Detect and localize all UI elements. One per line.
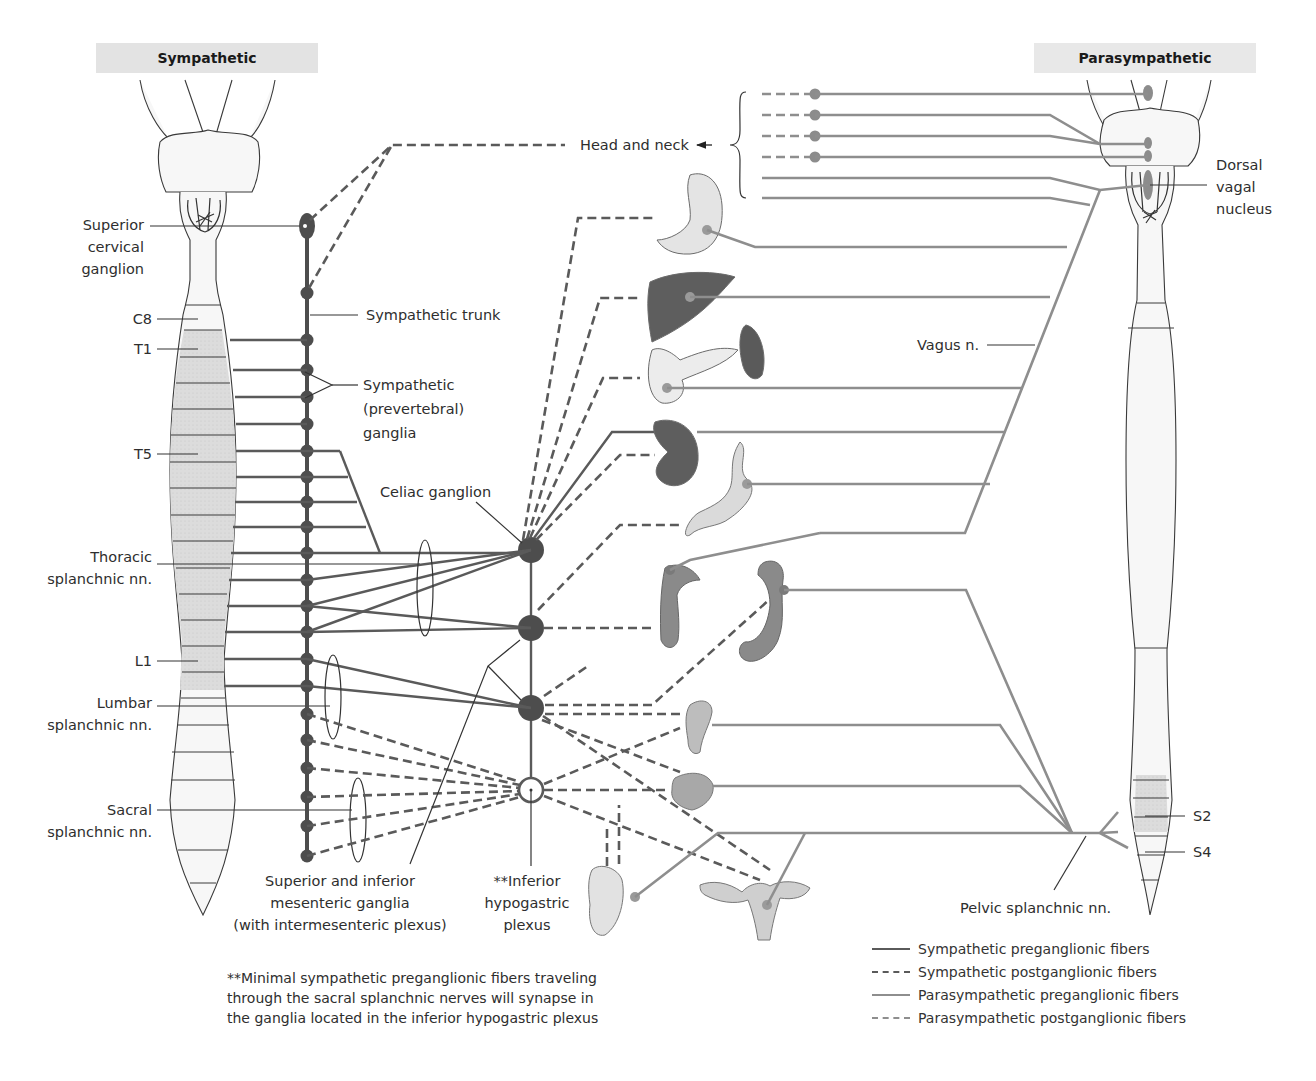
legend-item-sympathetic-postganglionic: Sympathetic postganglionic fibers	[872, 960, 1232, 983]
svg-text:nucleus: nucleus	[1216, 201, 1272, 217]
svg-text:T5: T5	[133, 446, 152, 462]
ascending-colon-organ	[660, 565, 700, 648]
autonomic-nervous-system-diagram: Sympathetic Parasympathetic	[0, 0, 1316, 1081]
female-reproductive-organ	[700, 882, 810, 940]
sympathetic-header: Sympathetic	[96, 43, 318, 73]
legend-label: Parasympathetic postganglionic fibers	[918, 1010, 1186, 1026]
solid-dark-line-icon	[872, 948, 910, 950]
thoracic-splanchnic-nerves	[307, 540, 531, 862]
legend-label: Parasympathetic preganglionic fibers	[918, 987, 1179, 1003]
svg-text:Sympathetic trunk: Sympathetic trunk	[366, 307, 501, 323]
left-spinal-cord	[140, 80, 275, 915]
svg-text:Thoracic: Thoracic	[89, 549, 152, 565]
svg-text:Sacral: Sacral	[107, 802, 152, 818]
svg-text:Sympathetic: Sympathetic	[157, 50, 256, 66]
svg-text:Head and neck: Head and neck	[580, 137, 689, 153]
pancreas-organ	[648, 348, 738, 403]
legend-label: Sympathetic postganglionic fibers	[918, 964, 1157, 980]
legend: Sympathetic preganglionic fibers Sympath…	[872, 937, 1232, 1029]
sympathetic-trunk-label: Sympathetic trunk	[310, 307, 501, 323]
svg-text:(prevertebral): (prevertebral)	[363, 401, 464, 417]
inferior-hypogastric-label: **Inferior hypogastric plexus	[484, 791, 569, 933]
liver-organ	[648, 272, 735, 342]
parasympathetic-header: Parasympathetic	[1034, 43, 1256, 73]
svg-text:mesenteric ganglia: mesenteric ganglia	[270, 895, 409, 911]
thoracic-splanchnic-label: Thoracic splanchnic nn.	[47, 549, 420, 587]
svg-text:Parasympathetic: Parasympathetic	[1078, 50, 1211, 66]
sympathetic-trunk	[299, 213, 315, 863]
pelvic-splanchnic-nerves	[635, 590, 1128, 905]
spleen-organ	[740, 325, 764, 379]
right-spinal-cord	[1087, 80, 1211, 915]
svg-text:(with intermesenteric plexus): (with intermesenteric plexus)	[233, 917, 446, 933]
svg-text:T1: T1	[133, 341, 152, 357]
svg-text:vagal: vagal	[1216, 179, 1256, 195]
svg-text:Celiac ganglion: Celiac ganglion	[380, 484, 491, 500]
svg-text:Superior and inferior: Superior and inferior	[265, 873, 415, 889]
svg-text:Sympathetic: Sympathetic	[363, 377, 455, 393]
prevertebral-ganglia	[518, 537, 544, 802]
stomach-organ	[657, 174, 722, 254]
svg-text:splanchnic nn.: splanchnic nn.	[47, 717, 152, 733]
svg-text:Dorsal: Dorsal	[1216, 157, 1262, 173]
svg-text:S2: S2	[1193, 808, 1211, 824]
mesenteric-ganglia-label: Superior and inferior mesenteric ganglia…	[233, 640, 521, 933]
descending-colon-organ	[739, 561, 789, 661]
celiac-ganglion-label: Celiac ganglion	[380, 484, 522, 543]
legend-item-sympathetic-preganglionic: Sympathetic preganglionic fibers	[872, 937, 1232, 960]
footnote: **Minimal sympathetic preganglionic fibe…	[227, 968, 677, 1028]
svg-text:ganglia: ganglia	[363, 425, 416, 441]
svg-text:ganglion: ganglion	[81, 261, 144, 277]
svg-text:hypogastric: hypogastric	[484, 895, 569, 911]
rectum-organ	[686, 701, 712, 754]
svg-text:Lumbar: Lumbar	[97, 695, 152, 711]
svg-text:cervical: cervical	[88, 239, 144, 255]
svg-text:plexus: plexus	[503, 917, 550, 933]
svg-text:splanchnic nn.: splanchnic nn.	[47, 824, 152, 840]
legend-label: Sympathetic preganglionic fibers	[918, 941, 1150, 957]
dashed-light-line-icon	[872, 1017, 910, 1019]
sympathetic-ganglia-label: Sympathetic (prevertebral) ganglia	[305, 372, 464, 441]
kidney-organ	[654, 420, 698, 486]
footnote-line: **Minimal sympathetic preganglionic fibe…	[227, 968, 677, 988]
svg-text:L1: L1	[135, 653, 152, 669]
legend-item-parasympathetic-preganglionic: Parasympathetic preganglionic fibers	[872, 983, 1232, 1006]
bladder-organ	[672, 773, 713, 810]
vagus-label: Vagus n.	[917, 337, 1035, 353]
footnote-line: through the sacral splanchnic nerves wil…	[227, 988, 677, 1008]
svg-text:S4: S4	[1193, 844, 1211, 860]
cranial-parasympathetic-fibers	[762, 89, 1148, 206]
solid-light-line-icon	[872, 994, 910, 996]
sacral-postganglionic-fibers	[307, 714, 520, 856]
footnote-line: the ganglia located in the inferior hypo…	[227, 1008, 677, 1028]
svg-text:C8: C8	[133, 311, 152, 327]
svg-text:Pelvic splanchnic nn.: Pelvic splanchnic nn.	[960, 900, 1111, 916]
legend-item-parasympathetic-postganglionic: Parasympathetic postganglionic fibers	[872, 1006, 1232, 1029]
male-genitalia-organ	[589, 866, 640, 935]
svg-text:splanchnic nn.: splanchnic nn.	[47, 571, 152, 587]
head-neck-sympathetic-fibers	[309, 145, 565, 288]
svg-text:Superior: Superior	[83, 217, 144, 233]
head-and-neck-label: Head and neck	[580, 92, 746, 198]
svg-text:Vagus n.: Vagus n.	[917, 337, 979, 353]
dashed-dark-line-icon	[872, 971, 910, 973]
pelvic-splanchnic-label: Pelvic splanchnic nn.	[960, 836, 1111, 916]
svg-text:**Inferior: **Inferior	[494, 873, 561, 889]
